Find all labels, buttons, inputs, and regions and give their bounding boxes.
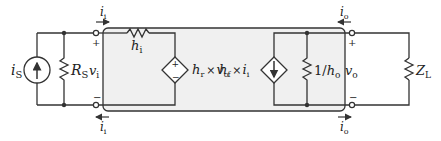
rs-label: RS: [70, 62, 89, 80]
input-current-label-bottom: ii: [100, 120, 107, 136]
output-minus-sign: −: [349, 92, 357, 103]
input-current-label-top: ii: [100, 5, 107, 21]
input-terminal-top: [93, 30, 98, 35]
input-minus-sign: −: [93, 92, 101, 103]
cccs-label: hf×ii: [219, 62, 250, 79]
input-terminal-bottom: [93, 102, 98, 107]
output-terminal-top: [349, 30, 354, 35]
output-terminal-bottom: [349, 102, 354, 107]
resistor-zl-icon: [405, 58, 413, 80]
svg-text:−: −: [172, 72, 180, 82]
input-plus-sign: +: [92, 37, 100, 48]
load-network: [355, 33, 413, 105]
output-current-label-bottom: io: [340, 120, 349, 136]
zl-label: ZL: [415, 63, 431, 80]
output-voltage-label: vo: [345, 63, 358, 80]
output-plus-sign: +: [348, 37, 356, 48]
svg-text:+: +: [172, 59, 180, 69]
source-current-label: iS: [11, 62, 22, 80]
resistor-rs-icon: [60, 33, 68, 105]
input-voltage-label: vi: [89, 63, 99, 80]
circuit-diagram: iS RS + − vi ii ii + − hi hr×vo hf×ii 1/…: [0, 0, 441, 141]
output-current-label-top: io: [340, 5, 349, 21]
